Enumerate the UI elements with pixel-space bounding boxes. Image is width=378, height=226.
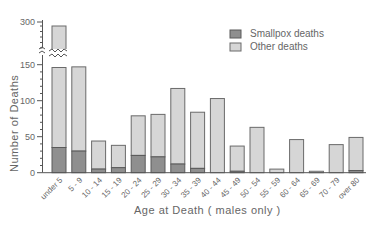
- x-tick-label: 40 - 44: [199, 175, 223, 199]
- bar-other: [72, 67, 86, 151]
- bar-other: [290, 140, 304, 173]
- bar-smallpox: [191, 168, 205, 172]
- bar-6: [171, 88, 185, 172]
- bar-12: [290, 140, 304, 173]
- x-tick-label: 25 - 29: [139, 175, 163, 199]
- x-tick-label: over 80: [336, 175, 362, 201]
- x-tick-label: 45 - 49: [219, 175, 243, 199]
- bar-other: [191, 112, 205, 168]
- bar-5: [151, 114, 165, 172]
- x-tick-label: 15 - 19: [100, 175, 124, 199]
- x-tick-label: 55 - 59: [258, 175, 282, 199]
- x-tick-label: 35 - 39: [179, 175, 203, 199]
- y-tick-label: 100: [20, 96, 35, 106]
- bar-smallpox: [72, 151, 86, 173]
- legend-label-other: Other deaths: [250, 41, 308, 52]
- bar-other-upper: [52, 26, 66, 50]
- bar-other: [210, 99, 224, 173]
- bar-10: [250, 127, 264, 172]
- x-tick-label: under 5: [39, 175, 65, 201]
- bar-smallpox: [92, 169, 106, 173]
- bar-other: [349, 137, 363, 170]
- x-tick-label: 50 - 54: [238, 175, 262, 199]
- legend-label-smallpox: Smallpox deaths: [250, 28, 324, 39]
- bar-other: [329, 145, 343, 173]
- bar-other: [171, 88, 185, 164]
- bar-other: [92, 141, 106, 169]
- bar-smallpox: [151, 157, 165, 173]
- bar-smallpox: [111, 168, 125, 173]
- bar-2: [92, 141, 106, 173]
- bar-other: [131, 116, 145, 156]
- bar-smallpox: [52, 148, 66, 173]
- bar-15: [349, 137, 363, 172]
- legend-swatch-smallpox: [230, 30, 241, 38]
- bars-group: [49, 26, 363, 173]
- y-tick-label: 50: [25, 132, 35, 142]
- x-tick-labels: under 55 - 910 - 1415 - 1920 - 2425 - 29…: [39, 175, 362, 201]
- bar-other-lower: [52, 68, 66, 148]
- bar-other: [111, 145, 125, 167]
- bar-other: [230, 146, 244, 171]
- y-tick-label: 300: [20, 17, 35, 27]
- legend: Smallpox deaths Other deaths: [230, 28, 324, 52]
- bar-other: [250, 127, 264, 172]
- bar-smallpox: [171, 164, 185, 173]
- bar-14: [329, 145, 343, 173]
- bar-7: [191, 112, 205, 172]
- bar-3: [111, 145, 125, 172]
- x-tick-label: 10 - 14: [80, 175, 104, 199]
- smallpox-deaths-chart: 050100150300 under 55 - 910 - 1415 - 192…: [0, 0, 378, 226]
- x-tick-label: 60 - 64: [278, 175, 302, 199]
- bar-0: [49, 26, 67, 173]
- bar-1: [72, 67, 86, 173]
- bar-4: [131, 116, 145, 173]
- y-axis-title: Number of Deaths: [8, 75, 20, 172]
- y-tick-label: 150: [20, 60, 35, 70]
- bar-11: [270, 169, 284, 173]
- x-axis-title: Age at Death ( males only ): [134, 204, 281, 216]
- bar-other: [270, 169, 284, 173]
- x-tick-label: 65 - 69: [298, 175, 322, 199]
- bar-9: [230, 146, 244, 173]
- legend-swatch-other: [230, 43, 241, 51]
- x-tick-label: 20 - 24: [120, 175, 144, 199]
- bar-smallpox: [131, 155, 145, 172]
- y-tick-label: 0: [30, 168, 35, 178]
- x-tick-label: 30 - 34: [159, 175, 183, 199]
- bar-8: [210, 99, 224, 173]
- bar-other: [151, 114, 165, 156]
